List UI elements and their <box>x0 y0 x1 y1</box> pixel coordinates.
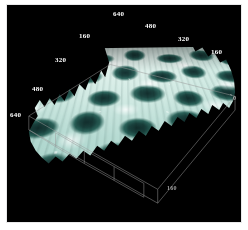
tick-left-160: 160 <box>79 33 90 40</box>
tick-front-160: 160 <box>167 185 177 191</box>
tick-back-640: 640 <box>113 11 124 18</box>
tick-back-320: 320 <box>178 36 189 43</box>
topography-surface <box>6 46 242 216</box>
tick-right-0: 0 <box>233 95 236 101</box>
surface-depth-shading <box>6 46 242 216</box>
tick-left-640: 640 <box>10 112 21 119</box>
tick-back-480: 480 <box>145 23 156 30</box>
plot-area: 640 480 320 160 160 320 480 640 0 160 <box>6 4 242 223</box>
tick-left-320: 320 <box>55 57 66 64</box>
surface-plot-figure: 640 480 320 160 160 320 480 640 0 160 <box>0 0 248 230</box>
tick-back-160: 160 <box>211 49 222 56</box>
surface-stage <box>7 5 241 222</box>
tick-left-480: 480 <box>32 86 43 93</box>
